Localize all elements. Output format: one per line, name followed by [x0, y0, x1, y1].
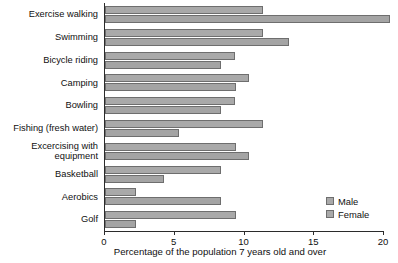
- legend-label-female: Female: [338, 209, 369, 220]
- legend-swatch-male: [326, 197, 334, 205]
- category-label: Excercising with equipment: [0, 141, 98, 162]
- x-axis-title: Percentage of the population 7 years old…: [0, 246, 398, 257]
- bar-female: [105, 175, 164, 183]
- bar-female: [105, 15, 390, 23]
- x-tick-mark: [244, 231, 245, 235]
- bar-female: [105, 220, 136, 228]
- bar-male: [105, 211, 236, 219]
- category-label: Swimming: [0, 32, 98, 42]
- bar-female: [105, 129, 179, 137]
- category-label: Fishing (fresh water): [0, 123, 98, 133]
- category-label: Bicycle riding: [0, 55, 98, 65]
- bar-male: [105, 74, 249, 82]
- legend-swatch-female: [326, 210, 334, 218]
- bar-female: [105, 152, 249, 160]
- bar-male: [105, 143, 236, 151]
- category-label: Aerobics: [0, 192, 98, 202]
- bar-female: [105, 61, 221, 69]
- bar-male: [105, 97, 235, 105]
- bar-female: [105, 83, 236, 91]
- bar-female: [105, 106, 221, 114]
- bar-male: [105, 166, 221, 174]
- legend-label-male: Male: [338, 196, 358, 207]
- category-axis: Exercise walkingSwimmingBicycle ridingCa…: [0, 3, 101, 231]
- category-label: Golf: [0, 214, 98, 224]
- bar-male: [105, 6, 263, 14]
- chart-container: Exercise walkingSwimmingBicycle ridingCa…: [0, 0, 398, 263]
- bar-male: [105, 52, 235, 60]
- x-tick-mark: [104, 231, 105, 235]
- category-label: Basketball: [0, 169, 98, 179]
- x-tick-mark: [313, 231, 314, 235]
- legend-item-male: Male: [326, 195, 369, 207]
- x-tick-mark: [174, 231, 175, 235]
- category-label: Exercise walking: [0, 9, 98, 19]
- bar-male: [105, 120, 263, 128]
- category-label: Bowling: [0, 100, 98, 110]
- chart-legend: Male Female: [326, 195, 369, 221]
- legend-item-female: Female: [326, 208, 369, 220]
- bar-female: [105, 197, 221, 205]
- category-label: Camping: [0, 78, 98, 88]
- bar-female: [105, 38, 289, 46]
- bar-male: [105, 188, 136, 196]
- x-tick-mark: [383, 231, 384, 235]
- bar-male: [105, 29, 263, 37]
